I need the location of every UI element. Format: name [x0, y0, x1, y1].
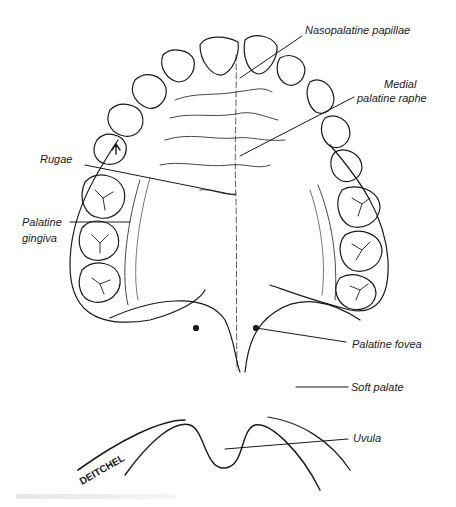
label-gingiva: gingiva: [22, 232, 57, 245]
tooth: [82, 175, 125, 218]
label-medial: Medial: [384, 78, 416, 91]
label-soft-palate: Soft palate: [351, 381, 404, 394]
tooth: [321, 116, 350, 148]
tooth: [200, 37, 238, 75]
label-palatine-raphe: palatine raphe: [357, 92, 427, 105]
palate-illustration: DEITCHEL: [0, 0, 456, 507]
label-palatine: Palatine: [22, 216, 62, 229]
left-gingiva-outline: [70, 140, 205, 322]
soft-palate-outer-right: [268, 417, 350, 470]
soft-palate-contour: [125, 424, 320, 490]
tooth: [307, 80, 334, 113]
label-uvula: Uvula: [353, 432, 381, 445]
palatine-fovea-left: [194, 326, 199, 331]
tooth: [162, 50, 195, 82]
leader-rugae: [85, 165, 235, 195]
tooth: [244, 36, 277, 74]
tooth: [132, 75, 166, 109]
palate-posterior-right: [245, 302, 360, 372]
tooth: [108, 104, 143, 136]
tooth: [79, 221, 118, 260]
medial-raphe: [235, 55, 237, 370]
figure-caption-faint: [16, 494, 176, 499]
artist-signature: DEITCHEL: [78, 452, 127, 487]
tooth: [336, 275, 376, 310]
tooth: [94, 134, 126, 164]
right-gingiva-outline: [270, 145, 388, 311]
soft-palate-outer-left: [78, 420, 185, 470]
label-rugae: Rugae: [40, 153, 72, 166]
label-nasopalatine-papillae: Nasopalatine papillae: [305, 24, 410, 37]
tooth: [277, 56, 305, 86]
tooth: [79, 263, 120, 302]
leader-nasopalatine: [240, 36, 302, 78]
label-palatine-fovea: Palatine fovea: [352, 338, 422, 351]
leader-fovea: [256, 328, 346, 342]
